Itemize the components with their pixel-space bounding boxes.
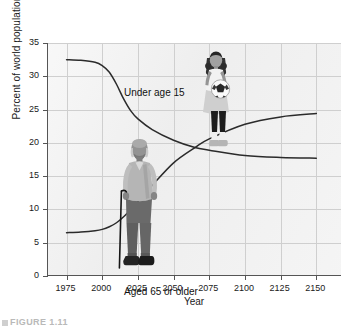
curve-under-age-15 [67, 60, 317, 159]
population-age-figure: Percent of world population Under age 15… [0, 0, 353, 327]
y-axis-tick-label: 10 [0, 204, 39, 213]
x-axis-tick-label: 2125 [260, 283, 300, 293]
girl-with-soccer-ball-photo [196, 47, 236, 150]
x-axis-tick-label: 2000 [81, 283, 121, 293]
y-axis-tick-label: 25 [0, 105, 39, 114]
y-axis-tick-label: 35 [0, 38, 39, 47]
y-axis-tick [43, 276, 48, 277]
elderly-man-with-cane-photo [110, 135, 168, 275]
figure-caption: FIGURE 1.11 [10, 317, 68, 327]
x-axis-tick-label: 1975 [46, 283, 86, 293]
y-axis-title: Percent of world population [11, 0, 22, 138]
series-curves [48, 43, 342, 276]
x-axis-tick-label: 2075 [188, 283, 228, 293]
curve-aged-65-or-older [67, 114, 317, 233]
x-axis-tick-label: 2100 [224, 283, 264, 293]
y-axis-tick-label: 30 [0, 71, 39, 80]
square-bullet-icon [2, 320, 8, 326]
y-axis-tick-label: 0 [0, 271, 39, 280]
series-label-under-age-15: Under age 15 [124, 87, 185, 98]
x-axis-tick-label: 2050 [153, 283, 193, 293]
y-axis-tick-label: 5 [0, 238, 39, 247]
x-axis-tick-label: 2025 [117, 283, 157, 293]
x-axis-title: Year [47, 296, 341, 307]
y-axis-tick-label: 20 [0, 138, 39, 147]
plot-area: Under age 15 Aged 65 or older [47, 43, 341, 276]
x-axis-tick-label: 2150 [295, 283, 335, 293]
y-axis-tick-label: 15 [0, 171, 39, 180]
